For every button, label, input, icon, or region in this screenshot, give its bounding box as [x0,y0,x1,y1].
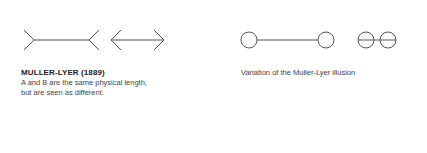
description-line-1: A and B are the same physical length, [21,78,191,88]
illusion-title: MULLER-LYER (1889) [21,68,105,77]
illusion-description: A and B are the same physical length, bu… [21,78,191,98]
description-line-2: but are seen as different. [21,88,191,98]
circle-variation-short [358,32,396,48]
variation-caption: Variation of the Muller-Lyer illusion [241,68,355,77]
muller-lyer-figure-a [24,30,99,50]
muller-lyer-figure-b [111,30,164,50]
circle-variation-long [241,32,334,48]
